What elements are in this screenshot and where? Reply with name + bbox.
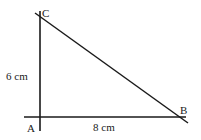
triangle-diagram: C A B 6 cm 8 cm [0, 0, 201, 140]
vertex-label-b: B [180, 104, 187, 116]
side-label-ab: 8 cm [93, 121, 115, 133]
side-label-ac: 6 cm [6, 70, 28, 82]
vertex-label-a: A [27, 122, 35, 134]
side-cb [35, 13, 188, 123]
vertex-label-c: C [42, 7, 49, 19]
